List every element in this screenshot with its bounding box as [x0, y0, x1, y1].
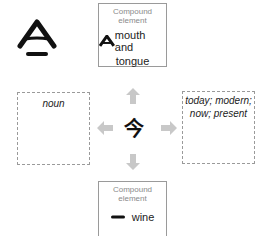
compound-caption: Compound element [99, 185, 166, 203]
arrow-left-icon [97, 121, 113, 135]
arrow-down-icon [126, 154, 140, 170]
meaning-line2: now; present [183, 107, 254, 120]
compound-element-top: Compound element mouth and tongue [98, 3, 167, 67]
horizontal-stroke-icon [111, 215, 125, 219]
meaning-label: wine [132, 211, 155, 223]
arrow-right-icon [161, 121, 177, 135]
part-of-speech-label: noun [18, 97, 89, 110]
center-character: 今 [122, 113, 146, 142]
meaning-line1: today; modern; [183, 94, 254, 107]
mouth-tongue-icon [99, 35, 115, 47]
ancient-character-icon [16, 16, 60, 60]
meaning-line1: mouth and [115, 29, 166, 53]
part-of-speech-box: noun [17, 92, 90, 165]
meaning-box: today; modern; now; present [182, 91, 255, 164]
compound-caption: Compound element [99, 7, 166, 25]
arrow-up-icon [126, 88, 140, 104]
compound-element-bottom: Compound element wine [98, 181, 167, 236]
meaning-line2: tongue [99, 55, 166, 67]
